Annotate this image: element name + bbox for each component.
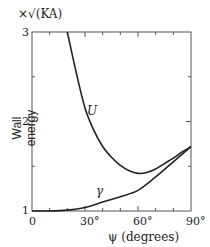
xtick-60: 60°: [133, 216, 153, 227]
axis-ticks: [32, 32, 191, 211]
xtick-0: 0: [29, 216, 36, 227]
ytick-1: 1: [22, 205, 29, 216]
xtick-30: 30°: [80, 216, 100, 227]
y-unit-label: ×√(KA): [18, 8, 62, 20]
y-axis-label: Wall energy: [10, 98, 38, 158]
label-U: U: [87, 105, 97, 117]
ytick-3: 3: [22, 27, 29, 38]
x-axis-label: ψ (degrees): [108, 231, 179, 243]
label-gamma: γ: [96, 185, 103, 197]
curve-U: [67, 32, 191, 174]
plot-frame: [32, 32, 191, 211]
xtick-90: 90°: [186, 216, 206, 227]
